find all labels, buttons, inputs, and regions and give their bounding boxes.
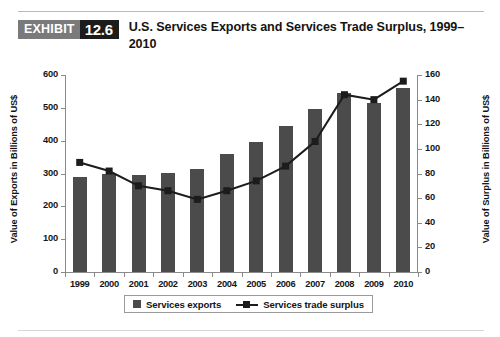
x-axis-label-2010: 2010 [383, 279, 423, 289]
bar-2004 [220, 154, 234, 272]
right-tick-mark [418, 149, 422, 150]
surplus-line-path [80, 81, 404, 199]
x-tick-mark [271, 273, 272, 277]
left-tick-mark [61, 75, 65, 76]
x-tick-mark [153, 273, 154, 277]
legend-item-services-exports: Services exports [133, 299, 221, 310]
bar-2001 [132, 175, 146, 272]
x-tick-mark [359, 273, 360, 277]
line-square-marker-icon [236, 300, 258, 308]
left-tick-label: 600 [18, 69, 58, 79]
legend-label-services-exports: Services exports [146, 299, 221, 310]
bar-2009 [367, 103, 381, 272]
left-tick-label: 500 [18, 102, 58, 112]
line-series [65, 67, 418, 273]
legend-item-services-trade-surplus: Services trade surplus [236, 299, 364, 310]
x-tick-mark [418, 273, 419, 277]
surplus-marker-1999 [76, 159, 83, 166]
left-tick-label: 200 [18, 200, 58, 210]
surplus-marker-2010 [400, 78, 407, 85]
right-tick-label: 60 [425, 192, 465, 202]
right-tick-mark [418, 223, 422, 224]
x-tick-mark [389, 273, 390, 277]
left-tick-mark [61, 239, 65, 240]
left-tick-mark [61, 141, 65, 142]
exhibit-number-label: 12.6 [80, 20, 119, 39]
right-tick-mark [418, 75, 422, 76]
bar-swatch-icon [133, 300, 141, 308]
y-axis-title-right: Value of Surplus in Billions of US$ [481, 69, 491, 269]
right-tick-label: 80 [425, 168, 465, 178]
left-axis-line [65, 75, 66, 273]
bar-2000 [102, 174, 116, 273]
x-tick-mark [330, 273, 331, 277]
right-tick-mark [418, 198, 422, 199]
exhibit-header: EXHIBIT 12.6 U.S. Services Exports and S… [18, 19, 484, 52]
right-tick-label: 40 [425, 217, 465, 227]
x-tick-mark [124, 273, 125, 277]
x-tick-mark [183, 273, 184, 277]
x-tick-mark [212, 273, 213, 277]
right-tick-label: 160 [425, 69, 465, 79]
bar-2010 [396, 88, 410, 272]
chart-legend: Services exports Services trade surplus [124, 295, 373, 313]
right-tick-mark [418, 174, 422, 175]
right-tick-label: 100 [425, 143, 465, 153]
bar-2003 [190, 169, 204, 272]
bar-2007 [308, 109, 322, 272]
exhibit-word-label: EXHIBIT [18, 20, 80, 39]
top-divider [18, 11, 484, 12]
right-tick-label: 0 [425, 266, 465, 276]
right-tick-mark [418, 100, 422, 101]
right-tick-mark [418, 247, 422, 248]
exhibit-badge: EXHIBIT 12.6 [18, 20, 119, 39]
bar-2002 [161, 173, 175, 272]
left-tick-mark [61, 206, 65, 207]
right-tick-label: 120 [425, 118, 465, 128]
bar-1999 [73, 177, 87, 272]
left-tick-label: 0 [18, 266, 58, 276]
bar-2008 [337, 93, 351, 272]
bottom-divider [18, 330, 484, 331]
left-tick-label: 100 [18, 233, 58, 243]
right-tick-label: 140 [425, 94, 465, 104]
x-tick-mark [65, 273, 66, 277]
legend-label-services-trade-surplus: Services trade surplus [263, 299, 364, 310]
left-tick-mark [61, 108, 65, 109]
x-tick-mark [300, 273, 301, 277]
x-tick-mark [242, 273, 243, 277]
chart-area: Value of Exports in Billions of US$ Valu… [0, 62, 500, 322]
exhibit-figure: EXHIBIT 12.6 U.S. Services Exports and S… [0, 0, 500, 337]
bar-2006 [279, 126, 293, 272]
left-tick-label: 400 [18, 135, 58, 145]
x-tick-mark [94, 273, 95, 277]
left-tick-label: 300 [18, 168, 58, 178]
left-tick-mark [61, 174, 65, 175]
page-title: U.S. Services Exports and Services Trade… [129, 19, 479, 52]
bar-2005 [249, 142, 263, 272]
plot-region: 0100200300400500600 02040608010012014016… [65, 67, 418, 273]
right-tick-label: 20 [425, 241, 465, 251]
right-tick-mark [418, 124, 422, 125]
